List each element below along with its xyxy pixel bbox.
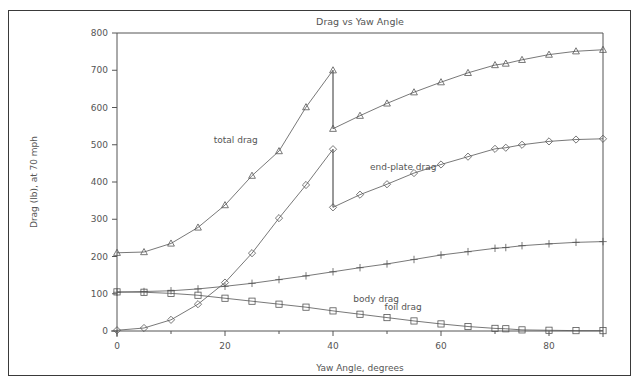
y-axis-title: Drag (lb), at 70 mph: [29, 136, 39, 228]
series-line-end-plate-drag-branch-1: [117, 149, 333, 330]
data-point-total-drag: [411, 89, 418, 95]
y-tick-label-400: 400: [91, 177, 108, 187]
x-tick-label-20: 20: [219, 341, 231, 351]
chart-frame: Drag vs Yaw Angle01002003004005006007008…: [8, 10, 631, 376]
series-label-end-plate-drag: end-plate drag: [370, 162, 437, 172]
y-tick-label-0: 0: [102, 326, 108, 336]
x-tick-label-60: 60: [435, 341, 447, 351]
y-tick-label-800: 800: [91, 28, 108, 38]
drag-vs-yaw-angle-chart: Drag vs Yaw Angle01002003004005006007008…: [9, 11, 629, 374]
x-axis-title: Yaw Angle, degrees: [315, 363, 404, 373]
series-line-end-plate-drag-branch-2: [333, 139, 603, 208]
y-tick-label-700: 700: [91, 65, 108, 75]
series-label-foil-drag: foil drag: [385, 302, 422, 312]
y-tick-label-200: 200: [91, 252, 108, 262]
y-tick-label-500: 500: [91, 140, 108, 150]
x-tick-label-80: 80: [543, 341, 555, 351]
chart-page: Drag vs Yaw Angle01002003004005006007008…: [0, 0, 639, 386]
chart-title: Drag vs Yaw Angle: [316, 16, 404, 27]
y-tick-label-300: 300: [91, 214, 108, 224]
series-line-total-drag-branch-2: [333, 50, 603, 129]
x-tick-label-0: 0: [114, 341, 120, 351]
x-tick-label-40: 40: [327, 341, 339, 351]
y-tick-label-100: 100: [91, 289, 108, 299]
y-tick-label-600: 600: [91, 103, 108, 113]
series-label-total-drag: total drag: [214, 135, 258, 145]
series-line-total-drag-branch-1: [117, 70, 333, 253]
